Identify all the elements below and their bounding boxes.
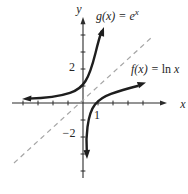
x-axis-label: x — [179, 97, 186, 111]
exp-curve-label-main: g(x) = e — [96, 9, 135, 23]
x-axis-arrow-icon — [160, 101, 167, 106]
exp-curve-label-exponent: x — [134, 7, 139, 17]
inverse-functions-graph-figure: y x 2 −2 1 g(x) = ex f(x) = ln x — [0, 0, 188, 194]
exp-curve-top-arrow-icon — [98, 27, 104, 37]
ln-curve-label: f(x) = ln x — [131, 62, 180, 76]
ln-curve-right-arrow-icon — [137, 82, 146, 88]
y-tick-label-neg2: −2 — [63, 126, 76, 140]
y-axis-label: y — [75, 2, 82, 16]
ln-curve-label-f: f(x) = — [131, 62, 162, 76]
exp-curve — [28, 32, 102, 99]
x-tick-label-1: 1 — [94, 108, 100, 122]
y-axis-arrow-icon — [81, 17, 86, 24]
ln-curve-label-ln: ln — [162, 62, 174, 76]
graph-canvas: y x 2 −2 1 g(x) = ex f(x) = ln x — [0, 0, 188, 194]
exp-curve-label: g(x) = ex — [96, 7, 139, 23]
ln-curve-label-x: x — [173, 62, 180, 76]
y-tick-label-2: 2 — [69, 60, 75, 74]
